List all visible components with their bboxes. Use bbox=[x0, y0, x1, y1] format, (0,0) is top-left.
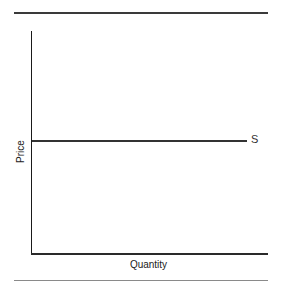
y-axis-label: Price bbox=[15, 130, 26, 174]
supply-curve-label: S bbox=[251, 133, 258, 145]
x-axis bbox=[31, 253, 268, 255]
bottom-divider bbox=[14, 280, 268, 281]
x-axis-label: Quantity bbox=[0, 259, 281, 270]
y-axis bbox=[31, 31, 32, 254]
supply-curve bbox=[32, 140, 247, 142]
top-divider bbox=[14, 12, 268, 14]
